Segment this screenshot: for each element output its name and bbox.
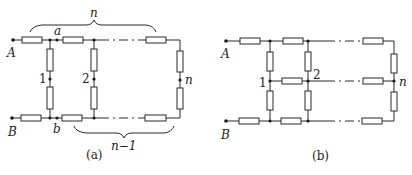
terminal-b-fig-b-dot [224,119,228,123]
resistor-rung2-upper [91,49,97,71]
label-terminal-b: B [7,125,17,139]
resistor-b-coln-upper [391,54,397,73]
resistor-b-top-2 [283,38,303,44]
resistor-b-top-input [240,38,260,44]
resistor-rungn-lower [177,88,183,109]
figure-b-grid-network: A B 1 2 n (b) [220,38,407,163]
label-b-node-2: 2 [313,68,321,82]
label-brace-bottom: n−1 [111,139,136,153]
resistor-b-coln-lower [391,92,397,111]
label-terminal-a: A [6,46,16,60]
label-brace-top: n [90,6,98,20]
resistor-b-mid-1 [282,78,302,84]
circuit-figure: A B a b 1 2 n n n−1 (a) [0,0,412,175]
resistor-b-col2-lower [305,91,311,110]
label-b-terminal-b: B [220,128,230,142]
label-node-b: b [53,122,61,136]
figure-a-ladder-network: A B a b 1 2 n n n−1 (a) [6,6,193,162]
label-b-terminal-a: A [220,47,230,61]
resistor-b-bottom-input [239,118,259,124]
node-a-dot [55,38,58,41]
caption-b: (b) [312,149,329,163]
node-b-n-dot [392,79,395,82]
resistor-b-top-n [363,38,383,44]
brace-top [30,20,156,32]
terminal-b-dot [10,116,14,120]
terminal-a-dot [11,38,15,42]
node-b-2-dot [306,79,309,82]
terminal-b-fig-a-dot [224,39,228,43]
resistor-b-col1-upper [267,52,273,71]
node-1-dot [48,77,51,80]
label-b-node-n: n [399,75,407,89]
resistor-rung2-lower [91,87,97,109]
resistor-b-bottom-2 [281,118,301,124]
resistor-rung1-upper [47,49,53,71]
resistor-bottom-2 [62,115,82,121]
node-b-1-dot [268,79,271,82]
node-n-dot [178,78,181,81]
resistor-rung1-lower [47,87,53,109]
caption-a: (a) [86,148,103,162]
resistor-top-n [146,37,166,43]
label-rung-2: 2 [82,72,90,86]
label-b-node-1: 1 [259,76,267,90]
resistor-b-col1-lower [267,91,273,110]
brace-bottom [74,126,174,138]
resistor-top-2 [63,37,83,43]
label-node-a: a [54,24,61,38]
label-rung-1: 1 [39,72,47,86]
resistor-b-mid-n [363,78,383,84]
resistor-top-input [22,37,42,43]
resistor-bottom-n [145,115,166,121]
resistor-b-col2-upper [305,52,311,71]
resistor-bottom-input [21,115,41,121]
label-rung-n: n [185,73,193,87]
node-b-dot [55,116,58,119]
node-2-dot [92,77,95,80]
resistor-rungn-upper [177,51,183,72]
resistor-b-bottom-n [362,118,382,124]
